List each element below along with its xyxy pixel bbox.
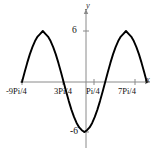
- x-axis-label: x: [146, 75, 150, 84]
- y-tick-label--6: -6: [70, 127, 78, 137]
- y-axis-label: y: [86, 1, 90, 10]
- x-tick-label--9pi4: -9Pi/4: [6, 87, 27, 96]
- y-tick-label-6: 6: [72, 26, 77, 36]
- x-tick-label--3pi4: 3Pi/4: [54, 87, 72, 96]
- x-tick-label-pi4: Pi/4: [86, 87, 100, 96]
- x-tick-label-7pi4: 7Pi/4: [118, 87, 136, 96]
- trig-function-graph: [0, 0, 162, 158]
